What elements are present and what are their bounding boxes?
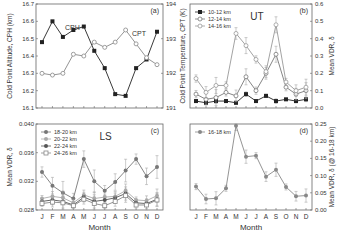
data-point bbox=[50, 184, 54, 188]
y2-axis-label: Cold Point Temperature, CPT (K) bbox=[179, 8, 187, 103]
data-point bbox=[234, 94, 238, 98]
data-point bbox=[103, 204, 107, 208]
data-point bbox=[134, 42, 138, 46]
y-tick-label: 0.10 bbox=[315, 173, 327, 179]
data-point bbox=[194, 77, 198, 81]
y-tick-label: 0.20 bbox=[315, 138, 327, 144]
legend-label: 24-26 km bbox=[54, 150, 77, 156]
data-point bbox=[198, 10, 202, 14]
y2-tick-label: 194 bbox=[166, 1, 177, 7]
data-point bbox=[82, 54, 86, 58]
data-point bbox=[134, 157, 138, 161]
data-point bbox=[61, 35, 65, 39]
panel-title: LS bbox=[99, 131, 112, 142]
data-point bbox=[294, 194, 298, 198]
x-tick-label: O bbox=[283, 213, 288, 220]
x-tick-label: J bbox=[40, 213, 43, 220]
data-point bbox=[204, 90, 208, 94]
panel-title: UT bbox=[250, 11, 263, 22]
data-point bbox=[244, 44, 248, 48]
x-tick-label: D bbox=[155, 213, 160, 220]
x-tick-label: D bbox=[304, 213, 309, 220]
data-point bbox=[214, 83, 218, 87]
data-point bbox=[194, 185, 198, 189]
data-point bbox=[254, 154, 258, 158]
data-point bbox=[214, 96, 218, 100]
panel-letter: (d) bbox=[299, 127, 308, 135]
legend-label: 10-12 km bbox=[208, 9, 231, 15]
data-point bbox=[198, 24, 202, 28]
legend-label: 16-18 km bbox=[208, 129, 231, 135]
y-tick-label: 0.3 bbox=[315, 53, 324, 59]
x-tick-label: M bbox=[213, 213, 218, 220]
chart-panel-c: JFMAMJJASONDMonth0.0280.0320.0360.040Mea… bbox=[6, 121, 163, 232]
data-point bbox=[274, 52, 278, 56]
y-tick-label: 0.4 bbox=[315, 36, 324, 42]
data-point bbox=[124, 169, 128, 173]
data-point bbox=[224, 90, 228, 94]
data-point bbox=[244, 155, 248, 159]
data-point bbox=[92, 49, 96, 53]
data-point bbox=[82, 157, 86, 161]
data-point bbox=[304, 194, 308, 198]
y-tick-label: 16.7 bbox=[22, 1, 34, 7]
y2-axis-label: Mean VDR, δ (@ 16-18 km) bbox=[328, 127, 336, 208]
x-tick-label: N bbox=[144, 213, 149, 220]
x-tick-label: F bbox=[204, 213, 208, 220]
data-point bbox=[234, 124, 238, 128]
x-tick-label: M bbox=[233, 213, 238, 220]
panel-letter: (c) bbox=[151, 127, 159, 135]
data-point bbox=[145, 56, 149, 60]
data-point bbox=[113, 180, 117, 184]
data-point bbox=[264, 175, 268, 179]
y-tick-label: 0.05 bbox=[315, 190, 327, 196]
data-point bbox=[274, 23, 278, 27]
data-point bbox=[103, 198, 107, 202]
x-axis-label: Month bbox=[240, 223, 262, 232]
x-tick-label: M bbox=[81, 213, 86, 220]
data-point bbox=[50, 200, 54, 204]
data-point bbox=[294, 89, 298, 93]
x-tick-label: J bbox=[244, 213, 247, 220]
x-tick-label: A bbox=[113, 213, 118, 220]
data-point bbox=[224, 186, 228, 190]
data-point bbox=[50, 19, 54, 23]
data-point bbox=[113, 199, 117, 203]
data-point bbox=[134, 203, 138, 207]
annotation-cpt: CPT bbox=[132, 30, 147, 37]
data-point bbox=[214, 196, 218, 200]
data-point bbox=[145, 203, 149, 207]
data-point bbox=[103, 189, 107, 193]
data-point bbox=[264, 70, 268, 74]
data-point bbox=[224, 99, 228, 103]
data-point bbox=[155, 165, 159, 169]
data-point bbox=[284, 97, 288, 101]
data-point bbox=[71, 52, 75, 56]
data-point bbox=[134, 66, 138, 70]
y-tick-label: 0.00 bbox=[315, 207, 327, 213]
x-tick-label: A bbox=[71, 213, 76, 220]
x-tick-label: S bbox=[274, 213, 279, 220]
legend-label: 22-24 km bbox=[54, 143, 77, 149]
data-point bbox=[40, 202, 44, 206]
x-tick-label: A bbox=[224, 213, 229, 220]
x-tick-label: J bbox=[103, 213, 106, 220]
panel-letter: (b) bbox=[299, 7, 308, 15]
data-point bbox=[155, 63, 159, 67]
x-tick-label: J bbox=[194, 213, 197, 220]
y-tick-label: 16.6 bbox=[22, 18, 34, 24]
data-point bbox=[244, 75, 248, 79]
figure-canvas: 16.116.216.316.416.516.616.7191192193194… bbox=[0, 0, 342, 239]
y-tick-label: 0.032 bbox=[19, 178, 35, 184]
y2-tick-label: 193 bbox=[166, 36, 177, 42]
y-axis-label: Cold Point Altitude, CPH (km) bbox=[6, 13, 14, 98]
data-point bbox=[124, 28, 128, 32]
data-point bbox=[44, 137, 48, 141]
y-tick-label: 0.028 bbox=[19, 207, 35, 213]
y2-tick-label: 191 bbox=[166, 105, 177, 111]
data-point bbox=[194, 92, 198, 96]
data-point bbox=[71, 204, 75, 208]
x-tick-label: M bbox=[60, 213, 65, 220]
data-point bbox=[61, 201, 65, 205]
data-point bbox=[82, 25, 86, 29]
